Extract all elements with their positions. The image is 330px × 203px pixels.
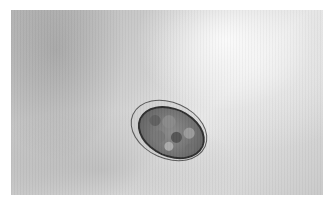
parasite-egg bbox=[121, 88, 217, 173]
segmented-embryo bbox=[129, 96, 213, 169]
micrograph-photo: Grayscale light micrograph of a single o… bbox=[11, 10, 323, 195]
